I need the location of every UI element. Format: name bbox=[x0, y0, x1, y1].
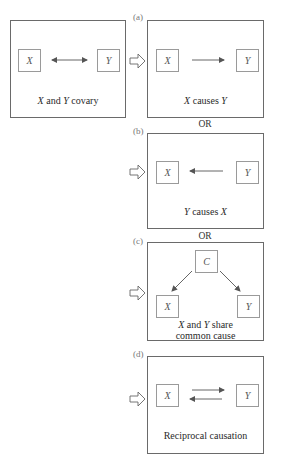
panel-d-label: (d) bbox=[133, 349, 144, 359]
node-x: X bbox=[156, 161, 179, 184]
panel-d: X Y Reciprocal causation bbox=[147, 356, 264, 454]
panel-a: X Y X causes Y bbox=[147, 20, 264, 118]
panel-b-label: (b) bbox=[133, 126, 144, 136]
node-y: Y bbox=[236, 161, 259, 184]
node-y: Y bbox=[237, 295, 260, 318]
node-x: X bbox=[156, 295, 179, 318]
panel-a-label: (a) bbox=[133, 12, 143, 22]
node-y: Y bbox=[236, 49, 259, 72]
node-y: Y bbox=[236, 384, 259, 407]
node-y: Y bbox=[97, 49, 120, 72]
or-separator: OR bbox=[185, 119, 225, 129]
panel-c-label: (c) bbox=[133, 236, 143, 246]
node-x: X bbox=[18, 49, 41, 72]
panel-a-caption: X causes Y bbox=[148, 95, 263, 106]
panel-d-caption: Reciprocal causation bbox=[148, 430, 263, 441]
panel-b-caption: Y causes X bbox=[148, 206, 263, 217]
panel-c-caption: X and Y share common cause bbox=[148, 319, 263, 341]
panel-c: C X Y X and Y share common cause bbox=[147, 242, 264, 341]
source-caption: X and Y covary bbox=[11, 95, 125, 106]
node-x: X bbox=[156, 49, 179, 72]
panel-b: X Y Y causes X bbox=[147, 133, 264, 229]
source-panel: X Y X and Y covary bbox=[10, 20, 126, 118]
node-x: X bbox=[156, 384, 179, 407]
or-separator: OR bbox=[185, 231, 225, 241]
node-c: C bbox=[195, 250, 218, 273]
